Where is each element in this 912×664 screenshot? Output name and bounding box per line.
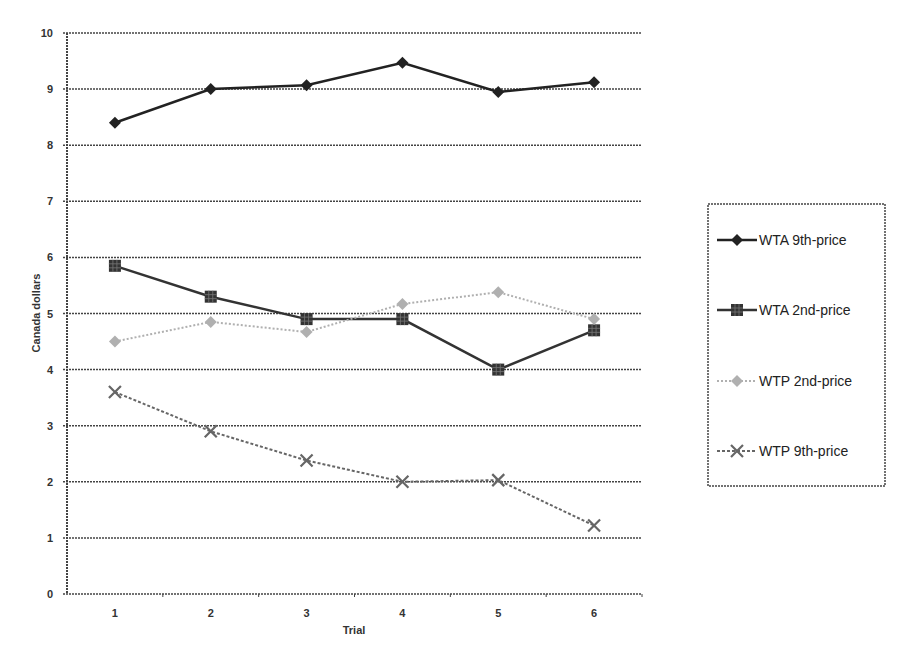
data-point-diamond-icon	[588, 313, 600, 325]
data-point-square-icon	[492, 364, 504, 376]
x-axis-ticks: 123456	[112, 594, 642, 619]
legend-label: WTA 2nd-price	[759, 302, 851, 318]
data-point-x-icon	[109, 386, 121, 398]
x-tick-label: 6	[591, 607, 597, 619]
x-tick-label: 2	[208, 607, 214, 619]
y-tick-label: 9	[47, 83, 53, 95]
series-line	[115, 292, 594, 341]
y-tick-label: 3	[47, 420, 53, 432]
data-point-square-icon	[205, 291, 217, 303]
legend-label: WTP 2nd-price	[759, 373, 852, 389]
x-tick-label: 1	[112, 607, 118, 619]
line-chart: 012345678910 123456 Trial Canada dollars…	[0, 0, 912, 664]
data-point-x-icon	[492, 474, 504, 486]
data-point-square-icon	[301, 313, 313, 325]
data-point-diamond-icon	[109, 117, 121, 129]
legend-item: WTA 2nd-price	[717, 302, 851, 318]
series-wta-9th-price	[109, 57, 600, 129]
data-series	[109, 57, 600, 532]
data-point-diamond-icon	[205, 316, 217, 328]
y-tick-label: 2	[47, 476, 53, 488]
data-point-diamond-icon	[588, 76, 600, 88]
y-tick-label: 1	[47, 532, 53, 544]
x-tick-label: 5	[495, 607, 501, 619]
y-tick-label: 10	[41, 27, 53, 39]
series-wtp-9th-price	[109, 386, 600, 532]
legend-square-marker-icon	[731, 304, 743, 316]
series-line	[115, 63, 594, 123]
legend-label: WTP 9th-price	[759, 443, 848, 459]
data-point-diamond-icon	[492, 286, 504, 298]
x-tick-label: 3	[304, 607, 310, 619]
legend-item: WTP 2nd-price	[717, 373, 852, 389]
data-point-diamond-icon	[492, 86, 504, 98]
data-point-diamond-icon	[396, 298, 408, 310]
data-point-square-icon	[588, 324, 600, 336]
gridlines	[63, 33, 642, 594]
data-point-x-icon	[588, 520, 600, 532]
y-axis-title: Canada dollars	[30, 274, 42, 353]
y-tick-label: 0	[47, 588, 53, 600]
y-tick-label: 7	[47, 195, 53, 207]
data-point-x-icon	[205, 425, 217, 437]
data-point-diamond-icon	[109, 336, 121, 348]
data-point-diamond-icon	[301, 326, 313, 338]
series-line	[115, 392, 594, 526]
y-tick-label: 6	[47, 251, 53, 263]
x-axis-title: Trial	[343, 624, 366, 636]
data-point-diamond-icon	[205, 83, 217, 95]
data-point-diamond-icon	[396, 57, 408, 69]
legend: WTA 9th-priceWTA 2nd-priceWTP 2nd-priceW…	[708, 204, 885, 486]
data-point-square-icon	[109, 260, 121, 272]
y-tick-label: 8	[47, 139, 53, 151]
y-tick-label: 4	[47, 364, 54, 376]
data-point-square-icon	[396, 313, 408, 325]
y-axis-ticks: 012345678910	[41, 27, 54, 600]
x-tick-label: 4	[399, 607, 406, 619]
legend-label: WTA 9th-price	[759, 232, 847, 248]
series-wtp-2nd-price	[109, 286, 600, 347]
y-tick-label: 5	[47, 308, 53, 320]
